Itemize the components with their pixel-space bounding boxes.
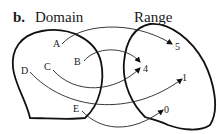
domain-element-e: E bbox=[73, 103, 79, 114]
domain-element-c: C bbox=[44, 61, 51, 72]
domain-element-d: D bbox=[21, 65, 28, 76]
domain-element-a: A bbox=[53, 38, 61, 49]
range-element-4: 4 bbox=[143, 63, 148, 74]
range-element-1: 1 bbox=[182, 72, 187, 83]
range-set-outline bbox=[124, 24, 215, 130]
domain-range-diagram: b. Domain Range A B C D E 5 4 1 0 bbox=[0, 0, 217, 134]
range-element-0: 0 bbox=[164, 104, 169, 115]
range-title: Range bbox=[134, 9, 173, 25]
domain-title: Domain bbox=[35, 9, 84, 25]
arrow-d-to-1 bbox=[30, 72, 182, 105]
domain-element-b: B bbox=[74, 56, 81, 67]
range-element-5: 5 bbox=[175, 41, 180, 52]
panel-label: b. bbox=[13, 9, 25, 25]
arrow-b-to-4 bbox=[84, 50, 140, 62]
